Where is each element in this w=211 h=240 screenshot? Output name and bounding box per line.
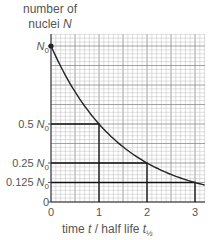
ytick-n0: N0 [37,40,49,57]
ytick-half-var: N [37,118,45,130]
xtick-0: 0 [45,206,57,218]
ytick-n0-var: N [37,40,45,52]
ytick-half: 0.5 N0 [18,118,49,135]
ytick-eighth-num: 0.125 [6,176,37,188]
xtick-2: 2 [141,206,153,218]
x-axis-title-mid: / half life [91,222,142,236]
ytick-half-num: 0.5 [18,118,36,130]
x-axis-sub: ½ [146,229,153,238]
ytick-eighth-var: N [37,176,45,188]
x-axis-title-pre: time [62,222,88,236]
xtick-1: 1 [93,206,105,218]
ytick-quarter-num: 0.25 [12,157,36,169]
ytick-half-sub: 0 [45,124,49,133]
ytick-quarter-sub: 0 [45,163,49,172]
ytick-n0-sub: 0 [45,46,49,55]
ytick-eighth: 0.125 N0 [6,176,49,193]
n0-point [48,43,53,48]
ytick-quarter: 0.25 N0 [12,157,49,174]
ytick-eighth-sub: 0 [45,182,49,191]
ytick-quarter-var: N [37,157,45,169]
x-axis-title: time t / half life t½ [62,222,153,238]
xtick-3: 3 [189,206,201,218]
